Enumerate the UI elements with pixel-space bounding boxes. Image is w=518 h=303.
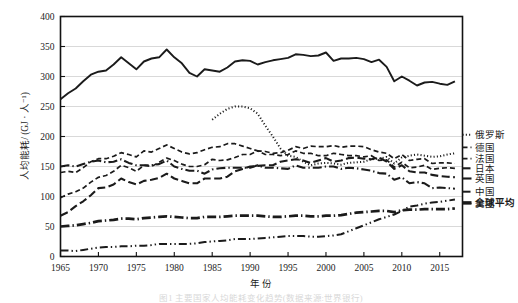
legend-label-俄罗斯[interactable]: 俄罗斯 bbox=[475, 129, 505, 140]
y-tick-label-200: 200 bbox=[40, 132, 55, 142]
x-tick-label-1975: 1975 bbox=[127, 263, 146, 273]
legend-label-中国[interactable]: 中国 bbox=[475, 186, 495, 197]
y-tick-label-250: 250 bbox=[40, 102, 55, 112]
x-tick-label-2010: 2010 bbox=[392, 263, 411, 273]
series-line-俄罗斯 bbox=[212, 107, 455, 166]
x-tick-label-1980: 1980 bbox=[165, 263, 184, 273]
x-tick-label-2000: 2000 bbox=[316, 263, 335, 273]
x-axis-title: 年 份 bbox=[250, 278, 272, 289]
figure-container: 050100150200250300350400 196519701975198… bbox=[0, 0, 518, 303]
legend-group: 美国俄罗斯德国法国日本英国中国全球平均 bbox=[463, 129, 515, 209]
legend-label-法国[interactable]: 法国 bbox=[475, 153, 495, 164]
x-tick-label-1985: 1985 bbox=[203, 263, 222, 273]
x-tick-label-2005: 2005 bbox=[354, 263, 373, 273]
y-tick-label-0: 0 bbox=[50, 252, 55, 262]
x-tick-label-1995: 1995 bbox=[279, 263, 298, 273]
legend-label-全球平均[interactable]: 全球平均 bbox=[474, 197, 515, 208]
figure-caption: 图1 主要国家人均能耗变化趋势(数据来源:世界银行) bbox=[159, 293, 363, 303]
legend-label-日本[interactable]: 日本 bbox=[475, 163, 495, 174]
y-tick-label-150: 150 bbox=[40, 162, 55, 172]
energy-per-capita-line-chart: 050100150200250300350400 196519701975198… bbox=[0, 0, 518, 303]
series-line-美国 bbox=[61, 50, 455, 100]
y-tick-label-300: 300 bbox=[40, 72, 55, 82]
legend-label-德国[interactable]: 德国 bbox=[475, 142, 495, 153]
y-axis-title: 人均能耗/ (GJ · 人⁻¹) bbox=[19, 92, 31, 180]
x-tick-label-1990: 1990 bbox=[241, 263, 260, 273]
series-line-中国 bbox=[61, 200, 455, 252]
x-tick-label-1965: 1965 bbox=[51, 263, 70, 273]
series-line-英国 bbox=[61, 159, 455, 188]
x-tick-label-1970: 1970 bbox=[89, 263, 108, 273]
y-tick-label-400: 400 bbox=[40, 12, 55, 22]
series-line-全球平均 bbox=[61, 209, 455, 227]
series-group bbox=[61, 50, 455, 252]
gridlines-group bbox=[61, 47, 463, 227]
legend-label-英国[interactable]: 英国 bbox=[475, 173, 495, 184]
x-axis-tick-labels: 1965197019751980198519901995200020052010… bbox=[51, 263, 449, 273]
x-tick-label-2015: 2015 bbox=[430, 263, 449, 273]
y-tick-label-350: 350 bbox=[40, 42, 55, 52]
y-axis-tick-labels: 050100150200250300350400 bbox=[40, 12, 55, 262]
y-tick-label-100: 100 bbox=[40, 192, 55, 202]
y-tick-label-50: 50 bbox=[45, 222, 55, 232]
